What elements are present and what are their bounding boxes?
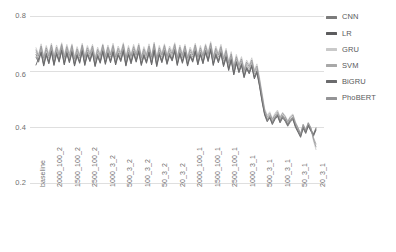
gridlines [30, 16, 324, 183]
legend-label: GRU [342, 46, 359, 54]
legend-label: PhoBERT [342, 94, 376, 102]
legend-label: BiGRU [342, 78, 366, 86]
series-lines [36, 42, 316, 150]
legend-label: SVM [342, 62, 359, 70]
series-line-bigru [36, 49, 316, 136]
legend-item-lr[interactable]: LR [326, 25, 376, 41]
legend-item-phobert[interactable]: PhoBERT [326, 90, 376, 106]
legend-item-svm[interactable]: SVM [326, 58, 376, 74]
line-chart: 0.8 0.6 0.4 0.2 baseline2000_100_21500_1… [0, 0, 396, 252]
legend-swatch-icon [326, 32, 337, 35]
legend-swatch-icon [326, 97, 337, 100]
series-line-lr [36, 51, 316, 138]
legend-item-gru[interactable]: GRU [326, 41, 376, 57]
legend-item-bigru[interactable]: BiGRU [326, 74, 376, 90]
legend-swatch-icon [326, 80, 337, 83]
legend-swatch-icon [326, 48, 337, 51]
legend-label: CNN [342, 13, 359, 21]
chart-legend: CNNLRGRUSVMBiGRUPhoBERT [326, 9, 376, 106]
legend-item-cnn[interactable]: CNN [326, 9, 376, 25]
legend-label: LR [342, 30, 352, 38]
legend-swatch-icon [326, 64, 337, 67]
legend-swatch-icon [326, 16, 337, 19]
